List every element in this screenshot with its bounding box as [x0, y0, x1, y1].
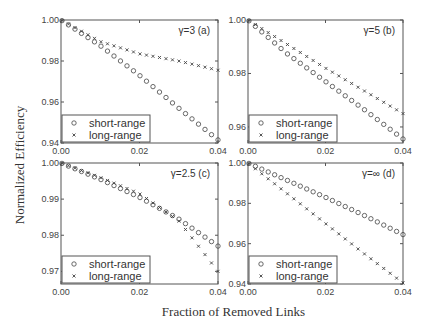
y-tick-label: 0.96: [228, 122, 246, 132]
long-range-marker: [171, 58, 174, 61]
short-range-marker: [118, 59, 122, 63]
short-range-marker: [272, 41, 276, 45]
short-range-marker: [394, 132, 398, 136]
panel-c: 0.000.020.040.970.980.991.00γ=2.5 (c)sho…: [41, 158, 226, 297]
long-range-marker: [331, 71, 334, 74]
x-tick-label: 0.00: [52, 287, 70, 297]
panel-annotation: γ=5 (b): [364, 25, 395, 36]
y-tick-label: 1.00: [228, 158, 246, 168]
short-range-marker: [196, 230, 200, 234]
long-range-marker: [324, 67, 327, 70]
long-range-marker: [203, 66, 206, 69]
long-range-marker: [292, 47, 295, 50]
short-range-marker: [183, 111, 187, 115]
long-range-marker: [210, 261, 213, 264]
long-range-marker: [197, 245, 200, 248]
x-tick-label: 0.02: [317, 146, 335, 156]
long-range-marker: [119, 46, 122, 49]
long-range-marker: [324, 222, 327, 225]
y-tick-label: 0.96: [41, 97, 59, 107]
short-range-marker: [285, 52, 289, 56]
long-range-marker: [305, 55, 308, 58]
short-range-marker: [112, 183, 116, 187]
short-range-marker: [266, 35, 270, 39]
short-range-marker: [66, 23, 70, 27]
long-range-marker: [190, 63, 193, 66]
short-range-marker: [177, 106, 181, 110]
long-range-marker: [112, 44, 115, 47]
panel-b: 0.000.020.040.960.981.00γ=5 (b)short-ran…: [228, 15, 411, 156]
long-range-marker: [350, 82, 353, 85]
long-range-marker: [267, 177, 270, 180]
legend-label-long-range: long-range: [276, 129, 329, 141]
short-range-marker: [73, 167, 77, 171]
figure-canvas: 0.000.020.040.940.960.981.00γ=3 (a)short…: [0, 0, 427, 325]
long-range-marker: [267, 31, 270, 34]
long-range-marker: [357, 86, 360, 89]
short-range-marker: [349, 207, 353, 211]
y-tick-label: 0.94: [41, 138, 59, 148]
long-range-marker: [67, 164, 70, 167]
short-range-marker: [138, 74, 142, 78]
y-tick-label: 0.97: [41, 266, 59, 276]
short-range-marker: [382, 223, 386, 227]
long-range-marker: [318, 63, 321, 66]
x-tick-label: 0.02: [131, 146, 149, 156]
short-range-marker: [369, 217, 373, 221]
short-range-marker: [131, 69, 135, 73]
short-range-marker: [298, 61, 302, 65]
long-range-marker: [86, 33, 89, 36]
legend-label-long-range: long-range: [89, 270, 142, 282]
long-range-marker: [145, 197, 148, 200]
long-range-marker: [177, 60, 180, 63]
y-tick-label: 0.98: [228, 68, 246, 78]
short-range-marker: [343, 204, 347, 208]
x-tick-label: 0.04: [394, 287, 412, 297]
long-range-marker: [395, 277, 398, 280]
short-range-marker: [138, 195, 142, 199]
x-tick-label: 0.00: [239, 146, 257, 156]
long-range-marker: [184, 228, 187, 231]
short-range-marker: [369, 112, 373, 116]
x-tick-label: 0.02: [317, 287, 335, 297]
long-range-marker: [286, 43, 289, 46]
short-range-marker: [362, 213, 366, 217]
long-range-marker: [369, 257, 372, 260]
long-range-marker: [389, 272, 392, 275]
short-range-marker: [203, 235, 207, 239]
y-tick-label: 1.00: [41, 15, 59, 25]
long-range-marker: [363, 252, 366, 255]
long-range-marker: [254, 167, 257, 170]
y-tick-label: 0.98: [41, 56, 59, 66]
short-range-marker: [317, 75, 321, 79]
long-range-marker: [382, 101, 385, 104]
short-range-marker: [190, 117, 194, 121]
short-range-marker: [330, 198, 334, 202]
short-range-marker: [279, 46, 283, 50]
short-range-marker: [349, 98, 353, 102]
x-tick-label: 0.02: [131, 287, 149, 297]
long-range-marker: [273, 182, 276, 185]
short-range-marker: [388, 127, 392, 131]
short-range-marker: [260, 167, 264, 171]
x-tick-label: 0.04: [209, 146, 227, 156]
short-range-marker: [99, 44, 103, 48]
y-tick-label: 0.99: [41, 194, 59, 204]
short-range-marker: [388, 226, 392, 230]
legend-label-short-range: short-range: [276, 117, 332, 129]
short-range-marker: [183, 221, 187, 225]
short-range-marker: [285, 178, 289, 182]
panel-d: 0.000.020.040.940.960.981.00γ=∞ (d)short…: [228, 158, 411, 297]
short-range-marker: [394, 229, 398, 233]
short-range-marker: [92, 40, 96, 44]
long-range-marker: [125, 48, 128, 51]
long-range-marker: [280, 187, 283, 190]
long-range-marker: [337, 232, 340, 235]
long-range-marker: [210, 67, 213, 70]
panel-annotation: γ=3 (a): [179, 25, 210, 36]
short-range-marker: [125, 189, 129, 193]
short-range-marker: [279, 175, 283, 179]
long-range-marker: [350, 242, 353, 245]
short-range-marker: [311, 70, 315, 74]
long-range-marker: [344, 78, 347, 81]
